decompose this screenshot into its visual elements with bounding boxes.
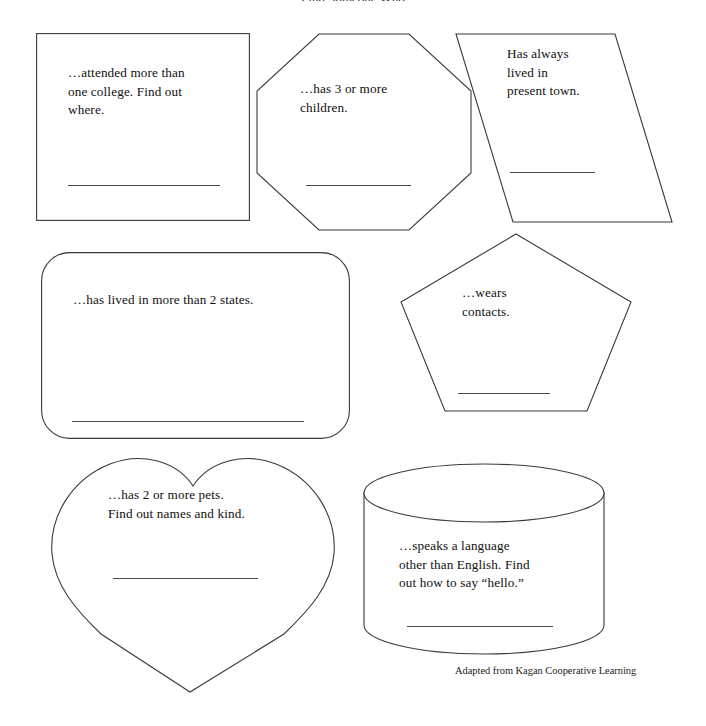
signature-line-rectangle[interactable]: [68, 185, 220, 186]
pentagon-outline: [401, 234, 631, 411]
signature-line-cylinder[interactable]: [407, 626, 553, 627]
worksheet-page: Find Someone Who …attended more than one…: [0, 0, 706, 726]
signature-line-rounded-rectangle[interactable]: [72, 421, 304, 422]
prompt-text-heart: …has 2 or more pets. Find out names and …: [108, 486, 308, 523]
prompt-text-pentagon: …wears contacts.: [462, 284, 572, 321]
shape-heart: …has 2 or more pets. Find out names and …: [48, 458, 338, 694]
octagon-outline: [257, 34, 471, 230]
prompt-text-rounded-rectangle: …has lived in more than 2 states.: [73, 291, 333, 310]
cylinder-top-ellipse: [364, 464, 604, 522]
shape-cylinder: …speaks a language other than English. F…: [363, 463, 606, 655]
prompt-text-rectangle: …attended more than one college. Find ou…: [68, 64, 233, 120]
shape-rounded-rectangle: …has lived in more than 2 states.: [41, 252, 350, 439]
signature-line-pentagon[interactable]: [458, 393, 550, 394]
prompt-text-octagon: …has 3 or more children.: [300, 80, 450, 117]
shape-pentagon: …wears contacts.: [400, 233, 632, 413]
page-title-partial: Find Someone Who: [0, 0, 706, 1]
shape-rectangle: …attended more than one college. Find ou…: [36, 33, 250, 221]
signature-line-parallelogram[interactable]: [510, 172, 595, 173]
footer-credit: Adapted from Kagan Cooperative Learning: [455, 665, 636, 676]
rounded-rectangle-outline: [42, 253, 350, 439]
signature-line-octagon[interactable]: [306, 185, 411, 186]
signature-line-heart[interactable]: [113, 578, 258, 579]
rectangle-outline: [37, 34, 250, 221]
shape-parallelogram: Has always lived in present town.: [455, 33, 673, 223]
shape-octagon: …has 3 or more children.: [256, 33, 472, 231]
prompt-text-parallelogram: Has always lived in present town.: [507, 45, 637, 101]
prompt-text-cylinder: …speaks a language other than English. F…: [399, 537, 579, 593]
